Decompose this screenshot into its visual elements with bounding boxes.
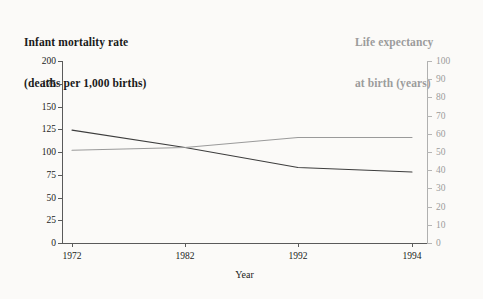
right-tick-label: 80 [436,92,446,102]
right-tick-label: 100 [436,56,450,66]
left-tick-label: 25 [26,215,56,225]
left-tick-label: 175 [26,79,56,89]
x-tick-label: 1994 [403,251,422,261]
series-line [72,137,412,150]
right-tick-label: 0 [436,238,441,248]
x-tick-label: 1992 [289,251,308,261]
left-tick-label: 200 [26,56,56,66]
plot-area: 0255075100125150175200 01020304050607080… [62,61,427,243]
right-tick-label: 10 [436,220,446,230]
x-tick-label: 1982 [176,251,195,261]
left-tick-label: 150 [26,102,56,112]
right-tick-label: 50 [436,147,446,157]
right-tick-label: 30 [436,183,446,193]
left-tick-label: 125 [26,124,56,134]
left-tick-label: 50 [26,193,56,203]
x-axis-label: Year [62,269,427,280]
right-axis-title-line1: Life expectancy [355,36,433,50]
series-line [72,130,412,172]
left-tick-label: 0 [26,238,56,248]
x-tick-label: 1972 [63,251,82,261]
left-tick-label: 75 [26,170,56,180]
chart-container: Infant mortality rate (deaths per 1,000 … [0,0,483,299]
left-tick-label: 100 [26,147,56,157]
right-tick-label: 90 [436,74,446,84]
right-tick-label: 20 [436,202,446,212]
series-lines [62,61,428,244]
right-tick-label: 40 [436,165,446,175]
left-axis-title-line1: Infant mortality rate [24,36,146,50]
right-tick-label: 60 [436,129,446,139]
right-tick-label: 70 [436,111,446,121]
